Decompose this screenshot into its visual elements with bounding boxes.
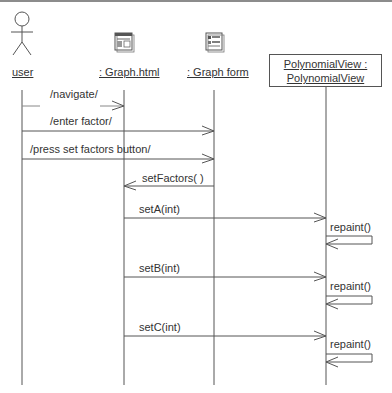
web-page-icon — [115, 33, 134, 52]
message-label-setc: setC(int) — [139, 321, 181, 334]
self-message-repaint-3-arrow — [326, 354, 372, 367]
web-form-icon — [206, 33, 224, 52]
message-label-navigate: /navigate/ — [50, 88, 98, 101]
polynomialview-object-box: PolynomialView : PolynomialView — [269, 54, 382, 87]
message-navigate-arrow — [22, 101, 124, 110]
object-label-line2: PolynomialView — [270, 71, 381, 85]
message-label-seta: setA(int) — [139, 203, 180, 216]
message-label-repaint-3: repaint() — [330, 338, 371, 351]
sequence-diagram: user : Graph.html : Graph form Polynomia… — [0, 0, 392, 393]
message-label-setb: setB(int) — [139, 262, 180, 275]
message-label-setfactors: setFactors( ) — [142, 172, 204, 185]
self-message-repaint-1-arrow — [326, 236, 372, 249]
actor-stick-figure-icon — [11, 12, 33, 55]
lifeline-label-user: user — [12, 66, 33, 79]
message-label-repaint-1: repaint() — [330, 221, 371, 234]
message-label-enter-factor: /enter factor/ — [50, 115, 112, 128]
message-label-repaint-2: repaint() — [330, 280, 371, 293]
lifeline-label-graph-form: : Graph form — [187, 66, 249, 79]
self-message-repaint-2-arrow — [326, 296, 372, 309]
message-label-press-set-factors: /press set factors button/ — [30, 143, 150, 156]
object-label-line1: PolynomialView : — [270, 57, 381, 71]
lifeline-label-graph-html: : Graph.html — [99, 66, 160, 79]
